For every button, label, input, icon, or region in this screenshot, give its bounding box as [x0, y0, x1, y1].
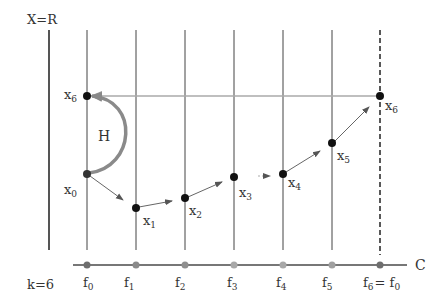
point-x2 — [181, 194, 189, 202]
c-dot-f3 — [231, 262, 238, 269]
label-x2: x2 — [189, 203, 202, 220]
point-x0 — [83, 170, 91, 178]
c-dot-f5 — [329, 262, 336, 269]
arrow-x2-x3 — [188, 182, 222, 197]
label-x0: x0 — [64, 182, 77, 199]
label-f6-eq-f0: f6= f0 — [363, 275, 400, 292]
label-f2: f2 — [175, 275, 186, 292]
label-x5: x5 — [337, 148, 350, 165]
label-x6-left: x6 — [64, 87, 77, 104]
c-dot-f4 — [280, 262, 287, 269]
point-x6-left — [83, 92, 91, 100]
arrow-x1-x2 — [139, 201, 172, 207]
c-dot-f1 — [133, 262, 140, 269]
label-x-equals-r: X=R — [27, 12, 58, 27]
arrow-x0-x1 — [90, 176, 123, 200]
point-x4 — [279, 170, 287, 178]
point-x3 — [230, 173, 238, 181]
path-arrows — [90, 107, 369, 207]
label-c: C — [415, 257, 426, 273]
label-k-equals-6: k=6 — [27, 277, 54, 292]
arrow-x4-x5 — [286, 151, 320, 172]
label-h: H — [98, 128, 110, 144]
label-f1: f1 — [124, 275, 135, 292]
label-x6-right: x6 — [385, 98, 398, 115]
label-f4: f4 — [276, 275, 287, 292]
label-f0: f0 — [83, 275, 94, 292]
point-x5 — [328, 139, 336, 147]
label-f5: f5 — [322, 275, 333, 292]
c-dot-f2 — [182, 262, 189, 269]
label-f3: f3 — [227, 275, 238, 292]
point-x6-right — [376, 92, 384, 100]
label-x1: x1 — [143, 213, 156, 230]
fiber-lines — [87, 30, 380, 255]
label-x3: x3 — [239, 185, 252, 202]
point-x1 — [132, 204, 140, 212]
label-x4: x4 — [288, 175, 301, 192]
c-dot-f6 — [377, 262, 384, 269]
arrow-x5-x6 — [335, 107, 369, 141]
c-dot-f0 — [84, 262, 91, 269]
monodromy-diagram: x6 x0 x1 x2 x3 x4 x5 x6 H X=R C k=6 f0 f… — [0, 0, 444, 300]
fiber-labels: f0 f1 f2 f3 f4 f5 f6= f0 — [83, 275, 400, 292]
